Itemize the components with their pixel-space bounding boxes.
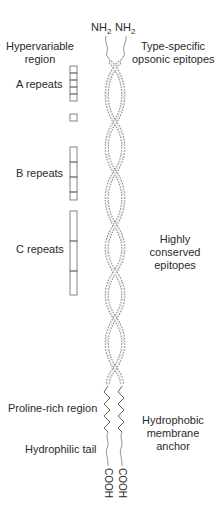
a-repeat-blocks	[70, 66, 77, 121]
hydrophilic-tails	[106, 432, 122, 466]
proline-rich-zigzag	[104, 386, 124, 432]
n-terminal-strands	[106, 36, 127, 62]
b-repeat-blocks	[70, 147, 77, 200]
diagram-graphics	[0, 0, 218, 518]
c-repeat-blocks	[70, 211, 77, 295]
coiled-coil-helix	[107, 62, 124, 384]
c-terminus-left: COOH	[103, 468, 113, 498]
repeat-blocks	[70, 66, 77, 295]
c-terminus-right: COOH	[117, 468, 127, 498]
single-a-block	[70, 114, 77, 121]
